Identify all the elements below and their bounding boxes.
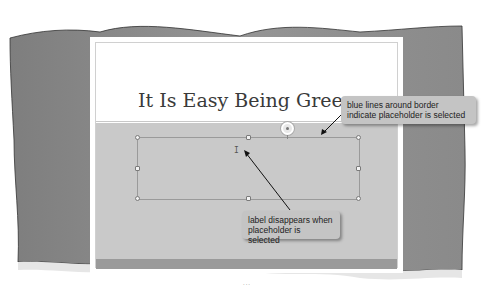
sizing-handle-middle-left-icon[interactable] xyxy=(135,166,140,171)
rotation-handle-icon[interactable] xyxy=(281,122,294,135)
sizing-handle-top-center-icon[interactable] xyxy=(246,135,251,140)
content-area: I xyxy=(96,123,397,269)
sizing-handle-middle-right-icon[interactable] xyxy=(356,166,361,171)
sizing-handle-top-left-icon[interactable] xyxy=(135,135,140,140)
callout-blue-lines: blue lines around border indicate placeh… xyxy=(341,96,476,124)
slide-bottom-band xyxy=(96,259,397,269)
callout-text: blue lines around border indicate placeh… xyxy=(347,100,465,120)
sizing-handle-bottom-center-icon[interactable] xyxy=(246,196,251,201)
rotation-handle-stem xyxy=(287,135,288,139)
sizing-handle-top-right-icon[interactable] xyxy=(356,135,361,140)
pane-splitter-grip[interactable]: ... xyxy=(243,280,251,286)
sizing-handle-bottom-right-icon[interactable] xyxy=(356,196,361,201)
text-cursor-ibeam-icon: I xyxy=(234,146,239,155)
sizing-handle-bottom-left-icon[interactable] xyxy=(135,196,140,201)
callout-label-disappears: label disappears when placeholder is sel… xyxy=(242,211,340,239)
subtitle-placeholder-selected[interactable]: I xyxy=(137,137,360,200)
